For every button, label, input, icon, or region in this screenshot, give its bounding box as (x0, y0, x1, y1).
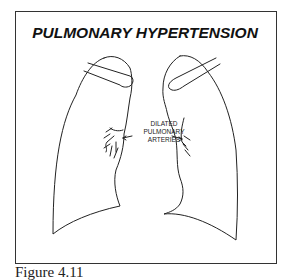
annotation-label: DILATED PULMONARY ARTERIES (126, 120, 202, 144)
right-lung-outline (53, 56, 132, 234)
right-clavicle (169, 58, 220, 90)
left-lung-outline (163, 56, 238, 240)
annotation-line-2: PULMONARY (126, 128, 202, 136)
figure-caption: Figure 4.11 (15, 265, 84, 280)
annotation-line-3: ARTERIES (126, 136, 202, 144)
left-hilar-vessels (104, 128, 123, 158)
annotation-line-1: DILATED (126, 120, 202, 128)
